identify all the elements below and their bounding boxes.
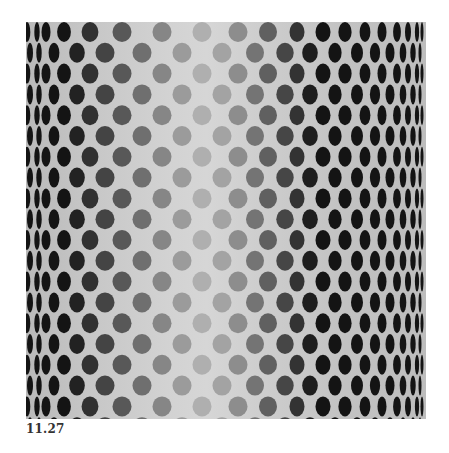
- ellipse-dot: [302, 251, 318, 271]
- ellipse-dot: [378, 22, 387, 42]
- ellipse-dot: [49, 334, 60, 354]
- ellipse-dot: [229, 64, 248, 84]
- ellipse-dot: [49, 376, 60, 396]
- ellipse-dot: [193, 272, 212, 292]
- ellipse-dot: [153, 147, 172, 167]
- ellipse-dot: [405, 313, 411, 333]
- ellipse-dot: [415, 355, 419, 375]
- ellipse-dot: [36, 209, 41, 229]
- ellipse-dot: [276, 168, 293, 188]
- ellipse-dot: [153, 313, 172, 333]
- ellipse-dot: [246, 251, 264, 271]
- ellipse-dot: [193, 105, 212, 125]
- ellipse-dot: [82, 396, 99, 416]
- ellipse-dot: [393, 313, 401, 333]
- ellipse-dot: [378, 147, 387, 167]
- ellipse-dot: [360, 147, 371, 167]
- ellipse-dot: [153, 396, 172, 416]
- ellipse-dot: [259, 64, 277, 84]
- ellipse-dot: [246, 209, 264, 229]
- ellipse-dot: [393, 105, 401, 125]
- ellipse-dot: [316, 105, 331, 125]
- ellipse-dot: [410, 251, 415, 271]
- ellipse-dot: [213, 209, 232, 229]
- ellipse-dot: [386, 292, 395, 312]
- ellipse-dot: [302, 376, 318, 396]
- ellipse-dot: [351, 209, 363, 229]
- ellipse-dot: [393, 230, 401, 250]
- ellipse-dot: [419, 334, 422, 354]
- ellipse-dot: [259, 188, 277, 208]
- ellipse-dot: [246, 168, 264, 188]
- ellipse-dot: [393, 64, 401, 84]
- ellipse-dot: [42, 313, 51, 333]
- ellipse-dot: [370, 209, 380, 229]
- ellipse-dot: [57, 22, 71, 42]
- ellipse-dot: [36, 334, 41, 354]
- ellipse-dot: [113, 147, 132, 167]
- ellipse-dot: [69, 251, 85, 271]
- ellipse-dot: [69, 292, 85, 312]
- ellipse-dot: [316, 147, 331, 167]
- ellipse-dot: [49, 168, 60, 188]
- ellipse-dot: [34, 272, 39, 292]
- ellipse-dot: [193, 313, 212, 333]
- ellipse-dot: [82, 22, 99, 42]
- ellipse-dot: [370, 292, 380, 312]
- ellipse-dot: [415, 272, 419, 292]
- ellipse-dot: [26, 230, 30, 250]
- ellipse-dot: [351, 251, 363, 271]
- ellipse-dot: [410, 126, 415, 146]
- ellipse-dot: [393, 188, 401, 208]
- ellipse-dot: [173, 334, 192, 354]
- ellipse-dot: [328, 43, 341, 63]
- ellipse-dot: [133, 168, 152, 188]
- ellipse-dot: [338, 188, 351, 208]
- ellipse-dot: [133, 84, 152, 104]
- ellipse-dot: [113, 313, 132, 333]
- ellipse-dot: [290, 147, 305, 167]
- ellipse-dot: [378, 230, 387, 250]
- ellipse-dot: [302, 43, 318, 63]
- ellipse-dot: [42, 188, 51, 208]
- ellipse-dot: [328, 126, 341, 146]
- ellipse-dot: [338, 64, 351, 84]
- ellipse-dot: [229, 272, 248, 292]
- ellipse-dot: [213, 376, 232, 396]
- ellipse-dot: [82, 272, 99, 292]
- ellipse-dot: [133, 43, 152, 63]
- ellipse-dot: [351, 334, 363, 354]
- ellipse-dot: [69, 43, 85, 63]
- ellipse-dot: [290, 355, 305, 375]
- ellipse-dot: [26, 105, 30, 125]
- ellipse-dot: [378, 313, 387, 333]
- ellipse-dot: [415, 230, 419, 250]
- ellipse-dot: [405, 230, 411, 250]
- ellipse-dot: [419, 43, 422, 63]
- ellipse-dot: [405, 22, 411, 42]
- ellipse-dot: [393, 396, 401, 416]
- ellipse-dot: [57, 64, 71, 84]
- ellipse-dot: [370, 168, 380, 188]
- ellipse-dot: [393, 147, 401, 167]
- ellipse-dot: [133, 251, 152, 271]
- ellipse-dot: [36, 292, 41, 312]
- ellipse-dot: [259, 313, 277, 333]
- ellipse-dot: [153, 105, 172, 125]
- ellipse-dot: [360, 230, 371, 250]
- ellipse-dot: [173, 84, 192, 104]
- ellipse-dot: [229, 22, 248, 42]
- ellipse-dot: [415, 22, 419, 42]
- ellipse-dot: [82, 64, 99, 84]
- ellipse-dot: [410, 168, 415, 188]
- ellipse-dot: [193, 22, 212, 42]
- ellipse-dot: [302, 292, 318, 312]
- ellipse-dot: [57, 396, 71, 416]
- ellipse-dot: [34, 355, 39, 375]
- ellipse-dot: [290, 313, 305, 333]
- ellipse-dot: [57, 313, 71, 333]
- ellipse-dot: [173, 376, 192, 396]
- ellipse-dot: [302, 417, 318, 419]
- ellipse-dot: [386, 209, 395, 229]
- ellipse-dot: [42, 22, 51, 42]
